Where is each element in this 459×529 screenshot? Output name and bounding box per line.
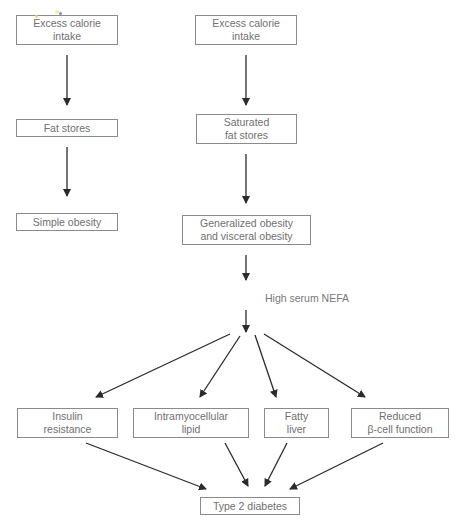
node-simple-obesity: Simple obesity [16, 213, 118, 231]
arrow-nefa-imcl [200, 336, 240, 397]
node-fat-stores: Fat stores [16, 119, 118, 137]
node-intramyocellular-lipid: Intramyocellular lipid [133, 408, 249, 438]
node-left-excess-calorie-intake: Excess calorie intake [16, 15, 118, 45]
node-generalized-visceral-obesity: Generalized obesity and visceral obesity [182, 215, 311, 245]
arrow-nefa-beta [264, 334, 365, 397]
arrow-liver-t2d [265, 443, 287, 486]
artifact-speck [35, 15, 38, 18]
arrow-imcl-t2d [225, 443, 248, 486]
node-fatty-liver: Fatty liver [264, 408, 329, 438]
label-high-serum-nefa: High serum NEFA [265, 292, 349, 304]
arrow-insulin-t2d [86, 443, 206, 489]
arrow-nefa-liver [255, 335, 276, 397]
node-saturated-fat-stores: Saturated fat stores [196, 114, 297, 144]
node-insulin-resistance: Insulin resistance [17, 408, 118, 438]
arrow-beta-t2d [290, 443, 383, 489]
artifact-speck [59, 12, 62, 15]
node-type-2-diabetes: Type 2 diabetes [200, 497, 300, 515]
connector-arrows [0, 0, 459, 529]
node-reduced-beta-cell-function: Reduced β-cell function [351, 408, 449, 438]
node-right-excess-calorie-intake: Excess calorie intake [195, 15, 297, 45]
arrow-nefa-insulin [96, 334, 230, 397]
